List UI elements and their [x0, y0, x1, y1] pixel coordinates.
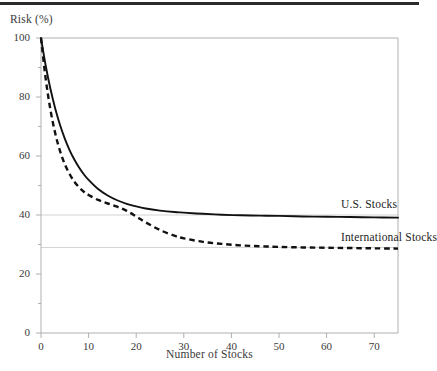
x-tick-label: 50: [266, 340, 292, 352]
y-tick-label: 100: [4, 31, 30, 43]
series-line-u-s-stocks: [41, 38, 398, 218]
x-tick-label: 0: [28, 340, 54, 352]
y-tick-label: 40: [4, 208, 30, 220]
y-tick-label: 20: [4, 267, 30, 279]
x-tick-label: 40: [218, 340, 244, 352]
y-tick-label: 60: [4, 149, 30, 161]
x-tick-label: 20: [123, 340, 149, 352]
x-tick-label: 60: [314, 340, 340, 352]
x-tick-label: 10: [76, 340, 102, 352]
international-stocks-label: International Stocks: [341, 231, 437, 243]
tick-marks: [36, 38, 374, 338]
series-paths: [41, 38, 398, 249]
us-stocks-label: U.S. Stocks: [341, 198, 397, 210]
x-tick-label: 30: [171, 340, 197, 352]
x-tick-label: 70: [361, 340, 387, 352]
y-tick-label: 0: [4, 326, 30, 338]
y-tick-label: 80: [4, 90, 30, 102]
